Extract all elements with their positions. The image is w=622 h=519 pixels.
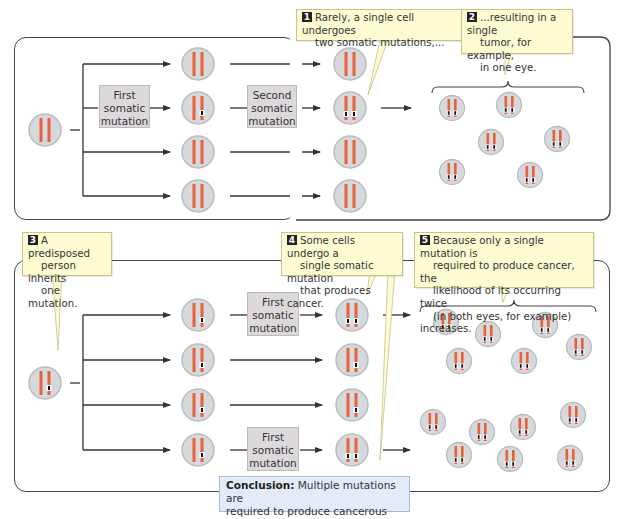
bottom-first-somatic-mutation-box-2: First somatic mutation xyxy=(247,427,299,471)
callout-number-2: 2 xyxy=(467,12,477,22)
callout-number-5: 5 xyxy=(420,235,430,245)
conclusion-box: Conclusion: Multiple mutations are requi… xyxy=(219,476,410,512)
callout-4: 4Some cells undergo a single somatic mut… xyxy=(281,232,403,276)
top-parent-cell xyxy=(29,114,61,146)
callout-3: 3A predisposed person inherits one mutat… xyxy=(22,232,112,276)
figure-stage: 1Rarely, a single cell undergoes two som… xyxy=(0,0,622,519)
callout-1: 1Rarely, a single cell undergoes two som… xyxy=(296,9,468,41)
second-somatic-mutation-box: Second somatic mutation xyxy=(247,85,297,128)
conclusion-label: Conclusion: xyxy=(226,479,294,491)
callout-number-1: 1 xyxy=(302,12,312,22)
first-somatic-mutation-box: First somatic mutation xyxy=(99,85,150,128)
callout-5: 5Because only a single mutation is requi… xyxy=(414,232,594,288)
callout-2: 2...resulting in a single tumor, for exa… xyxy=(461,9,573,54)
bottom-branch-lines xyxy=(70,315,410,450)
top-branch-lines xyxy=(70,64,411,196)
callout-number-4: 4 xyxy=(287,235,297,245)
callout-number-3: 3 xyxy=(28,235,38,245)
